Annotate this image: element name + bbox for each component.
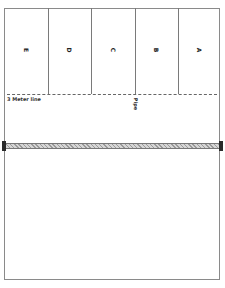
column-label-b: B [150,43,162,57]
column-divider [48,8,49,94]
three-meter-line [7,94,217,95]
pipe-bar [4,143,221,149]
column-label-c: C [107,43,119,57]
pipe-cap-right [219,141,223,151]
column-divider [135,8,136,94]
column-divider [91,8,92,94]
column-label-e: E [20,43,32,57]
column-divider [178,8,179,94]
column-label-d: D [63,43,75,57]
pipe-label: Pipe [133,98,139,110]
column-label-a: A [193,43,205,57]
pipe-cap-left [2,141,6,151]
three-meter-line-label: 3 Meter line [7,96,41,102]
